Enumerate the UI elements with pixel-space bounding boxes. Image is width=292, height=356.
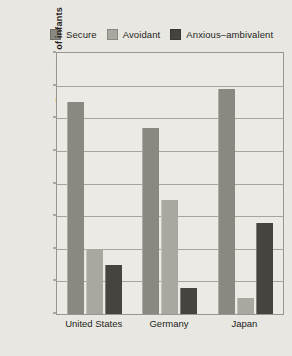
bars-layer xyxy=(57,53,283,314)
bar xyxy=(218,89,235,314)
legend-item-avoidant: Avoidant xyxy=(107,29,161,40)
bar xyxy=(67,102,84,314)
bar xyxy=(105,265,122,314)
legend-label-anxious-ambivalent: Anxious–ambivalent xyxy=(186,29,273,40)
bar xyxy=(142,128,159,314)
legend-item-anxious-ambivalent: Anxious–ambivalent xyxy=(170,29,273,40)
bar-group xyxy=(57,53,132,314)
x-axis-tick-label: Germany xyxy=(149,318,188,329)
x-axis-tick-label: Japan xyxy=(231,318,257,329)
chart-legend: Secure Avoidant Anxious–ambivalent xyxy=(50,26,286,42)
legend-label-secure: Secure xyxy=(66,29,97,40)
bar-group xyxy=(132,53,207,314)
bar xyxy=(256,223,273,314)
bar xyxy=(237,298,254,314)
legend-swatch-anxious-ambivalent-icon xyxy=(170,29,181,40)
x-axis-tick-label: United States xyxy=(65,318,122,329)
bar xyxy=(86,249,103,314)
x-axis-labels: United StatesGermanyJapan xyxy=(56,318,282,334)
bar xyxy=(180,288,197,314)
plot-area xyxy=(56,52,284,315)
bar-chart-figure: Secure Avoidant Anxious–ambivalent Perce… xyxy=(0,0,292,356)
bar-group xyxy=(208,53,283,314)
legend-swatch-avoidant-icon xyxy=(107,29,118,40)
legend-label-avoidant: Avoidant xyxy=(123,29,161,40)
bar xyxy=(161,200,178,314)
